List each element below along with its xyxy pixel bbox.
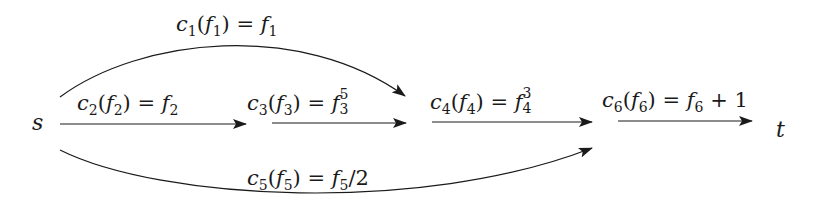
cost-index: 3 xyxy=(259,102,268,118)
paren-open: ( xyxy=(451,90,459,114)
sink-node-t: t xyxy=(776,117,785,142)
flow-index: 1 xyxy=(213,23,222,39)
cost-symbol: c xyxy=(430,90,442,114)
equals-sign: = xyxy=(301,91,332,115)
flow-symbol: f xyxy=(631,88,639,112)
cost-symbol: c xyxy=(247,166,259,190)
result-symbol: f xyxy=(332,91,340,115)
equals-sign: = xyxy=(131,91,162,115)
result-symbol: f xyxy=(261,12,269,36)
result-supsub: 34 xyxy=(523,108,533,109)
result-exponent: 5 xyxy=(340,87,349,101)
edge-6-label: c6(f6) = f6 + 1 xyxy=(602,90,748,114)
paren-close: ) xyxy=(293,166,301,190)
cost-index: 4 xyxy=(442,101,451,117)
paren-close: ) xyxy=(222,12,230,36)
flow-index: 3 xyxy=(284,102,293,118)
equals-sign: = xyxy=(656,88,687,112)
paren-close: ) xyxy=(123,91,131,115)
cost-symbol: c xyxy=(77,91,89,115)
edge-5-label: c5(f5) = f5/2 xyxy=(247,168,369,192)
result-index: 2 xyxy=(170,102,179,118)
result-extra: + 1 xyxy=(703,88,747,112)
cost-index: 2 xyxy=(89,102,98,118)
result-symbol: f xyxy=(687,88,695,112)
result-symbol: f xyxy=(515,90,523,114)
cost-index: 6 xyxy=(614,99,623,115)
paren-close: ) xyxy=(476,90,484,114)
result-symbol: f xyxy=(162,91,170,115)
equals-sign: = xyxy=(484,90,515,114)
paren-close: ) xyxy=(648,88,656,112)
edge-1-label: c1(f1) = f1 xyxy=(176,14,277,38)
edge-1-curve xyxy=(60,46,405,97)
paren-open: ( xyxy=(98,91,106,115)
cost-symbol: c xyxy=(176,12,188,36)
flow-index: 6 xyxy=(639,99,648,115)
equals-sign: = xyxy=(230,12,261,36)
paren-open: ( xyxy=(268,166,276,190)
result-index: 3 xyxy=(340,102,349,116)
paren-open: ( xyxy=(268,91,276,115)
paren-close: ) xyxy=(293,91,301,115)
cost-index: 1 xyxy=(188,23,197,39)
flow-index: 2 xyxy=(114,102,123,118)
result-index: 4 xyxy=(523,101,532,115)
flow-symbol: f xyxy=(106,91,114,115)
cost-index: 5 xyxy=(259,177,268,193)
flow-index: 5 xyxy=(284,177,293,193)
edge-2-label: c2(f2) = f2 xyxy=(77,93,178,117)
result-supsub: 53 xyxy=(340,109,350,110)
flow-symbol: f xyxy=(276,166,284,190)
result-index: 1 xyxy=(269,23,278,39)
cost-symbol: c xyxy=(247,91,259,115)
paren-open: ( xyxy=(623,88,631,112)
flow-symbol: f xyxy=(276,91,284,115)
equals-sign: = xyxy=(301,166,332,190)
paren-open: ( xyxy=(197,12,205,36)
flow-symbol: f xyxy=(459,90,467,114)
network-diagram: s t c1(f1) = f1 c2(f2) = f2 c3(f3) = f53… xyxy=(0,0,815,209)
edge-4-label: c4(f4) = f34 xyxy=(430,92,533,116)
result-exponent: 3 xyxy=(523,86,532,100)
edge-3-label: c3(f3) = f53 xyxy=(247,93,350,117)
result-extra: /2 xyxy=(348,166,368,190)
result-symbol: f xyxy=(332,166,340,190)
source-node-s: s xyxy=(32,110,43,135)
cost-symbol: c xyxy=(602,88,614,112)
flow-index: 4 xyxy=(467,101,476,117)
flow-symbol: f xyxy=(205,12,213,36)
